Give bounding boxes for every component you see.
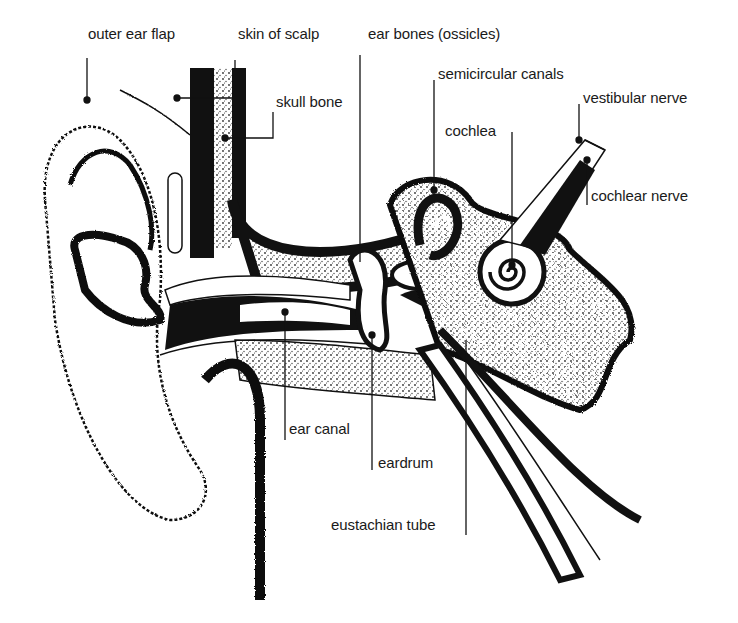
label-skin-of-scalp: skin of scalp — [238, 25, 319, 42]
label-outer-ear-flap: outer ear flap — [88, 25, 175, 42]
label-skull-bone: skull bone — [276, 93, 343, 110]
label-semicircular-canals: semicircular canals — [438, 65, 564, 82]
label-cochlear-nerve: cochlear nerve — [591, 187, 688, 204]
label-eustachian-tube: eustachian tube — [331, 516, 435, 533]
label-ear-canal: ear canal — [289, 420, 350, 437]
ear-anatomy-diagram: outer ear flap skin of scalp ear bones (… — [0, 0, 738, 623]
label-vestibular-nerve: vestibular nerve — [583, 89, 687, 106]
label-cochlea: cochlea — [445, 122, 496, 139]
label-eardrum: eardrum — [378, 454, 433, 471]
label-ear-bones: ear bones (ossicles) — [368, 25, 500, 42]
